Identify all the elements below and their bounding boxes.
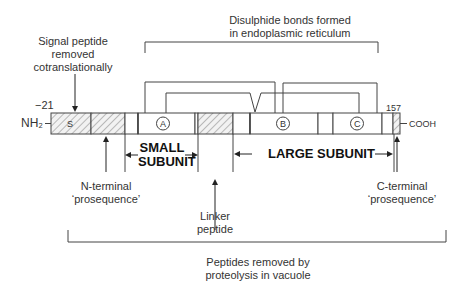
c-terminal-prosequence-segment bbox=[393, 113, 400, 134]
small-subunit-line2: SUBUNIT bbox=[138, 155, 186, 169]
vacuole-label: Peptides removed by proteolysis in vacuo… bbox=[196, 256, 320, 282]
n-terminal-line2: ‘prosequence’ bbox=[70, 193, 142, 206]
protein-bar bbox=[51, 113, 400, 134]
vacuole-line1: Peptides removed by bbox=[196, 256, 320, 269]
signal-peptide-line3: cotranslationally bbox=[18, 61, 128, 74]
disulphide-bonds bbox=[145, 82, 377, 113]
large-subunit-label: LARGE SUBUNIT bbox=[268, 147, 375, 161]
signal-peptide-label: Signal peptide removed cotranslationally bbox=[18, 35, 128, 74]
c-terminal-label: C-terminal ‘prosequence’ bbox=[366, 180, 438, 206]
c-terminal-line1: C-terminal bbox=[366, 180, 438, 193]
linker-peptide-segment bbox=[198, 113, 233, 134]
disulphide-bracket bbox=[145, 42, 378, 53]
small-subunit-label: SMALL SUBUNIT bbox=[138, 141, 186, 169]
signal-peptide-line1: Signal peptide bbox=[18, 35, 128, 48]
vacuole-bracket bbox=[68, 230, 446, 242]
cooh-label: COOH bbox=[409, 118, 436, 131]
small-subunit-line1: SMALL bbox=[138, 141, 186, 155]
vacuole-line2: proteolysis in vacuole bbox=[196, 269, 320, 282]
signal-peptide-line2: removed bbox=[18, 48, 128, 61]
n-terminal-label: N-terminal ‘prosequence’ bbox=[70, 180, 142, 206]
segment-s-label: S bbox=[67, 118, 73, 131]
nh2-label: NH₂ bbox=[21, 117, 43, 130]
c-terminal-line2: ‘prosequence’ bbox=[366, 193, 438, 206]
disulphide-label: Disulphide bonds formed in endoplasmic r… bbox=[190, 14, 390, 40]
n-terminal-line1: N-terminal bbox=[70, 180, 142, 193]
n-start-number: −21 bbox=[35, 99, 54, 112]
linker-line2: peptide bbox=[190, 223, 240, 236]
linker-line1: Linker bbox=[190, 210, 240, 223]
domain-c-label: C bbox=[354, 118, 361, 131]
c-end-number: 157 bbox=[386, 102, 401, 115]
domain-b-label: B bbox=[280, 118, 286, 131]
linker-label: Linker peptide bbox=[190, 210, 240, 236]
domain-a-label: A bbox=[160, 118, 166, 131]
disulphide-line2: in endoplasmic reticulum bbox=[190, 27, 390, 40]
disulphide-line1: Disulphide bonds formed bbox=[190, 14, 390, 27]
n-terminal-prosequence-segment bbox=[91, 113, 125, 134]
